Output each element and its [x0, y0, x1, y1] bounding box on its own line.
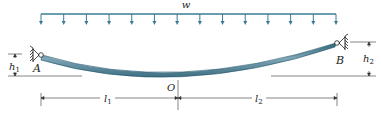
- span-l2-label: l2: [255, 93, 263, 106]
- load-label: w: [182, 0, 191, 10]
- arrow-head-icon: [243, 21, 247, 25]
- arrow-head-icon: [289, 21, 293, 25]
- support-b-label: B: [335, 54, 344, 67]
- h1-label: h1: [9, 61, 20, 74]
- arrow-head-icon: [152, 21, 156, 25]
- span-l1-label: l1: [104, 93, 112, 106]
- arrow-head-icon: [334, 21, 338, 25]
- arrow-head-icon: [266, 21, 270, 25]
- arrow-head-icon: [221, 21, 225, 25]
- arrow-head-icon: [39, 21, 43, 25]
- pin-support-b: [335, 34, 348, 50]
- span-dimensions: [41, 93, 337, 106]
- arrow-head-icon: [84, 21, 88, 25]
- arrow-head-icon: [130, 21, 134, 25]
- distributed-load: [39, 14, 338, 25]
- lowest-point-label: O: [167, 82, 175, 93]
- support-a-label: A: [32, 62, 41, 75]
- arrow-head-icon: [107, 21, 111, 25]
- beam: [41, 43, 336, 77]
- arrow-head-icon: [175, 21, 179, 25]
- arrow-head-icon: [62, 21, 66, 25]
- arrow-head-icon: [198, 21, 202, 25]
- beam-diagram: w A B h1 h2 O: [0, 0, 381, 116]
- arrow-head-icon: [311, 21, 315, 25]
- h2-label: h2: [363, 53, 374, 66]
